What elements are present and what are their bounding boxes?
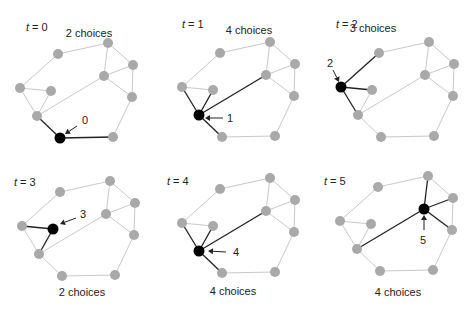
edge-A-B (379, 42, 429, 53)
edge-A-E (22, 192, 60, 226)
node-D (261, 206, 271, 216)
edge-D-G (106, 214, 134, 235)
node-C (448, 193, 458, 203)
node-A (55, 187, 65, 197)
highlighted-edge-D-H (199, 211, 266, 251)
panel-t0: 0t = 02 choices (15, 21, 138, 144)
node-A (374, 48, 384, 58)
node-G (447, 225, 457, 235)
step-label: 2 (327, 57, 333, 69)
node-B (265, 173, 275, 183)
node-B (105, 176, 115, 186)
node-D (99, 71, 109, 81)
node-B (423, 171, 433, 181)
node-E (177, 218, 187, 228)
time-step-title: t = 1 (182, 18, 204, 30)
node-C (128, 60, 138, 70)
edge-D-G (425, 75, 453, 96)
node-G (289, 227, 299, 237)
node-F (46, 86, 56, 96)
edge-A-E (182, 53, 220, 87)
pointer-arrow-icon (333, 70, 339, 82)
choices-label: 3 choices (350, 22, 397, 34)
step-label: 3 (80, 208, 86, 220)
edge-J-G (434, 96, 453, 136)
node-F (208, 85, 218, 95)
highlighted-edge-D-H (199, 75, 266, 115)
panel-t1: 1t = 14 choices (177, 18, 300, 142)
node-J (429, 131, 439, 141)
choices-label: 4 choices (210, 285, 257, 297)
time-step-title: t = 3 (14, 176, 36, 188)
node-C (290, 195, 300, 205)
node-D (261, 70, 271, 80)
panel-t5: 5t = 54 choices (324, 171, 458, 298)
node-G (127, 92, 137, 102)
step-label: 0 (82, 114, 88, 126)
edge-D-G (266, 211, 294, 232)
highlighted-edge-I-J (60, 137, 113, 138)
edge-A-E (340, 187, 378, 221)
node-G (289, 91, 299, 101)
current-node (336, 82, 347, 93)
current-node (48, 224, 59, 235)
node-F (366, 219, 376, 229)
step-label: 5 (420, 234, 426, 246)
node-H (352, 244, 362, 254)
node-A (53, 49, 63, 59)
node-E (177, 82, 187, 92)
choices-label: 2 choices (59, 286, 106, 298)
pointer-arrow-icon (421, 215, 427, 230)
panel-t3: 3t = 32 choices (14, 176, 140, 298)
node-A (373, 182, 383, 192)
node-A (215, 184, 225, 194)
random-walk-figure: 0t = 02 choices1t = 14 choices2t = 23 ch… (0, 0, 473, 309)
edge-D-H (358, 75, 425, 115)
edge-A-B (378, 176, 428, 187)
edge-A-B (60, 181, 110, 192)
node-E (15, 83, 25, 93)
time-step-title: t = 5 (324, 175, 346, 187)
edge-J-G (433, 230, 452, 270)
node-G (448, 91, 458, 101)
node-C (290, 59, 300, 69)
pointer-arrow-icon (60, 218, 76, 225)
edge-A-B (220, 42, 270, 53)
node-B (424, 37, 434, 47)
panel-t2: 2t = 23 choices (327, 18, 459, 142)
node-C (449, 59, 459, 69)
node-F (367, 85, 377, 95)
node-E (335, 216, 345, 226)
highlighted-edge-A-E (341, 53, 379, 87)
node-F (208, 221, 218, 231)
node-I (57, 271, 67, 281)
step-label: 4 (233, 246, 239, 258)
pointer-arrow-icon (208, 248, 226, 254)
node-J (110, 270, 120, 280)
node-I (217, 132, 227, 142)
node-H (32, 111, 42, 121)
highlighted-edge-D-H (357, 209, 424, 249)
node-D (101, 209, 111, 219)
choices-label: 4 choices (226, 24, 273, 36)
node-I (376, 132, 386, 142)
edge-I-J (380, 270, 433, 271)
edge-D-G (104, 76, 132, 97)
node-I (217, 268, 227, 278)
edge-I-J (222, 136, 275, 137)
choices-label: 2 choices (66, 27, 113, 39)
edge-J-G (275, 96, 294, 136)
node-D (420, 70, 430, 80)
edge-A-B (58, 43, 108, 54)
edge-D-H (37, 76, 104, 116)
current-node (194, 110, 205, 121)
node-B (103, 38, 113, 48)
edge-A-E (20, 54, 58, 88)
node-J (428, 265, 438, 275)
node-B (265, 37, 275, 47)
edge-I-J (62, 275, 115, 276)
edge-J-G (113, 97, 132, 137)
pointer-arrow-icon (205, 115, 223, 121)
panels-group: 0t = 02 choices1t = 14 choices2t = 23 ch… (14, 18, 459, 298)
step-label: 1 (227, 112, 233, 124)
